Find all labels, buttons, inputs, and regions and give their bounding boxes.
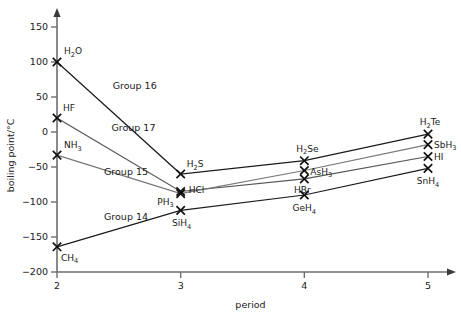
point-label-h2o: H2O: [64, 46, 82, 59]
y-axis-tick-label: −150: [22, 231, 48, 242]
x-axis-tick-label: 2: [54, 280, 60, 291]
y-axis-arrow: [53, 8, 60, 17]
point-label-h2se: H2Se: [296, 144, 319, 157]
x-axis-tick-label: 3: [178, 280, 184, 291]
data-point-marker: [424, 164, 432, 172]
annotation-group-16: Group 16: [113, 80, 157, 91]
point-label-hcl: HCl: [189, 185, 205, 195]
point-label-hbr: HBr: [294, 185, 311, 195]
series-line-group-14: [57, 168, 428, 246]
y-axis-title: boiling point/°C: [5, 118, 16, 192]
point-label-ph3: PH3: [157, 197, 173, 210]
x-axis-arrow: [447, 268, 456, 275]
annotation-group-14: Group 14: [104, 211, 148, 222]
y-axis-tick-label: 150: [30, 21, 48, 32]
data-point-markers: [53, 58, 432, 251]
y-axis-tick-label: 100: [30, 56, 48, 67]
point-label-h2s: H2S: [187, 159, 204, 172]
point-label-ch4: CH4: [61, 253, 78, 266]
point-label-nh3: NH3: [64, 140, 82, 153]
data-point-marker: [424, 130, 432, 138]
y-axis-tick-label: 0: [42, 126, 48, 137]
x-axis-title: period: [235, 299, 265, 310]
point-label-sbh3: SbH3: [434, 140, 456, 153]
annotation-group-15: Group 15: [104, 166, 148, 177]
y-axis-tick-label: −200: [22, 266, 48, 277]
axes: −200−150−100−500501001502345: [22, 8, 456, 291]
y-axis-tick-label: −100: [22, 196, 48, 207]
annotation-group-17: Group 17: [111, 122, 155, 133]
x-axis-tick-label: 5: [425, 280, 431, 291]
y-axis-tick-label: 50: [36, 91, 48, 102]
point-label-hi: HI: [434, 152, 443, 162]
point-label-h2te: H2Te: [420, 117, 441, 130]
point-label-hf: HF: [63, 103, 75, 113]
point-label-snh4: SnH4: [417, 176, 439, 189]
point-label-sih4: SiH4: [172, 218, 191, 231]
boiling-point-chart: −200−150−100−500501001502345 H2OH2SH2SeH…: [0, 0, 461, 316]
chart-canvas: −200−150−100−500501001502345 H2OH2SH2SeH…: [0, 0, 461, 316]
y-axis-tick-label: −50: [28, 161, 48, 172]
data-point-marker: [424, 140, 432, 148]
x-axis-tick-label: 4: [301, 280, 307, 291]
point-label-geh4: GeH4: [293, 203, 316, 216]
